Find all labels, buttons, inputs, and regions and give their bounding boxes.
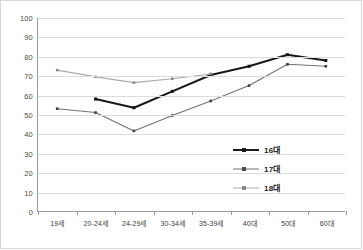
y-axis-tick-label: 50 [24,111,33,120]
data-point-marker[interactable] [209,73,212,76]
data-point-marker[interactable] [94,111,97,114]
x-axis-tick [115,211,116,215]
chart-frame: 010203040506070809010019세20-24세24-29세30-… [0,0,362,249]
x-axis-tick [192,211,193,215]
x-axis-tick [231,211,232,215]
x-axis-tick [154,211,155,215]
x-axis-tick-label: 40대 [243,218,257,228]
gridline [38,76,345,77]
gridline [38,37,345,38]
x-axis-tick-label: 24-29세 [122,218,147,228]
data-point-marker[interactable] [94,98,97,101]
legend-line-icon [233,183,259,193]
data-point-marker[interactable] [133,81,136,84]
data-point-marker[interactable] [209,100,212,103]
x-axis-tick-label: 50대 [281,218,295,228]
data-point-marker[interactable] [132,106,135,109]
legend-line-icon [233,164,259,174]
gridline [38,96,345,97]
x-axis-tick [269,211,270,215]
gridline [38,18,345,19]
legend-item-1[interactable]: 17대 [233,159,328,178]
y-axis-tick-label: 20 [24,169,33,178]
gridline [38,115,345,116]
x-axis-tick [38,211,39,215]
x-axis-tick-label: 30-34세 [160,218,185,228]
legend-item-label: 16대 [264,144,281,155]
legend-line-icon [233,145,259,155]
x-axis-tick-label: 20-24세 [83,218,108,228]
y-axis-tick-label: 80 [24,52,33,61]
x-axis-tick-label: 19세 [50,218,64,228]
y-axis-tick-label: 40 [24,130,33,139]
data-point-marker[interactable] [171,78,174,81]
y-axis-tick-label: 70 [24,72,33,81]
data-point-marker[interactable] [325,65,328,68]
data-point-marker[interactable] [56,107,59,110]
data-point-marker[interactable] [324,59,327,62]
data-point-marker[interactable] [286,63,289,66]
x-axis-tick [77,211,78,215]
legend-item-label: 17대 [264,163,281,174]
legend-item-0[interactable]: 16대 [233,140,328,159]
y-axis-tick-label: 100 [20,14,33,23]
data-point-marker[interactable] [248,84,251,87]
x-axis-tick-label: 60대 [320,218,334,228]
legend-item-label: 18대 [264,182,281,193]
data-point-marker[interactable] [248,65,251,68]
data-point-marker[interactable] [133,130,136,133]
y-axis-tick-label: 0 [29,208,33,217]
x-axis-tick [346,211,347,215]
legend-item-2[interactable]: 18대 [233,178,328,197]
data-point-marker[interactable] [171,90,174,93]
y-axis-tick-label: 30 [24,149,33,158]
y-axis-tick-label: 10 [24,188,33,197]
y-axis-tick-label: 60 [24,91,33,100]
x-axis-tick [308,211,309,215]
gridline [38,57,345,58]
gridline [38,134,345,135]
x-axis-tick-label: 35-39세 [199,218,224,228]
y-axis-tick-label: 90 [24,33,33,42]
data-point-marker[interactable] [56,69,59,72]
data-point-marker[interactable] [286,53,289,56]
series-line-1 [57,64,326,131]
chart-legend: 16대 17대 18대 [233,140,328,197]
